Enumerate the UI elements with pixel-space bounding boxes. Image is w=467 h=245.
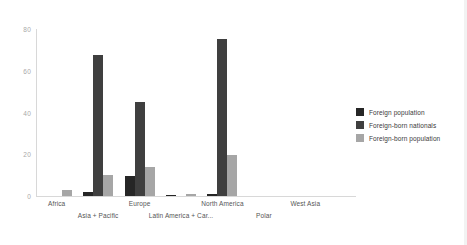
x-axis-tick-label: North America [201,200,243,207]
y-axis-tick-label: 40 [23,109,36,116]
bar[interactable] [62,190,72,196]
bar[interactable] [145,167,155,196]
bar[interactable] [166,195,176,196]
y-axis-tick-label: 0 [27,193,36,200]
legend-swatch-icon [356,108,364,116]
bar[interactable] [186,194,196,196]
legend-item-label: Foreign-born nationals [369,122,436,129]
bar[interactable] [93,55,103,196]
bar-group [243,29,284,196]
bar[interactable] [207,194,217,196]
bar[interactable] [227,155,237,196]
bar-chart: 020406080 AfricaAsia + PacificEuropeLati… [0,0,467,245]
x-axis-line [36,196,356,197]
x-axis-tick-label: Europe [129,200,151,207]
plot-area: 020406080 [36,29,326,196]
bar-group [119,29,160,196]
x-axis-tick-label: Polar [256,212,272,219]
legend-swatch-icon [356,121,364,129]
legend-item-label: Foreign population [369,109,425,116]
bar-group [202,29,243,196]
legend-item-label: Foreign-born population [369,135,440,142]
bar-group [160,29,201,196]
legend-swatch-icon [356,134,364,142]
legend-item[interactable]: Foreign population [356,108,440,116]
legend-item[interactable]: Foreign-born nationals [356,121,440,129]
bar[interactable] [125,176,135,196]
bar-group [36,29,77,196]
bar[interactable] [135,102,145,196]
x-axis-tick-label: Asia + Pacific [78,212,119,219]
x-axis-tick-label: Latin America + Car... [149,212,214,219]
bar[interactable] [103,175,113,196]
bar[interactable] [217,39,227,196]
bar-group [77,29,118,196]
chart-legend: Foreign populationForeign-born nationals… [356,108,440,142]
y-axis-tick-label: 20 [23,151,36,158]
x-axis-tick-label: Africa [48,200,65,207]
y-axis-tick-label: 80 [23,26,36,33]
legend-item[interactable]: Foreign-born population [356,134,440,142]
y-axis-tick-label: 60 [23,67,36,74]
bar-group [285,29,326,196]
bar[interactable] [83,192,93,196]
x-axis-tick-label: West Asia [290,200,320,207]
